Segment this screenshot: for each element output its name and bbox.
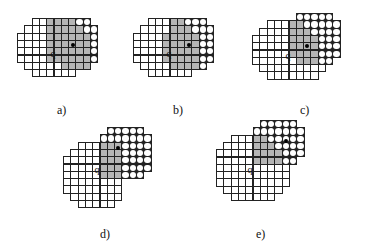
circle-cell [206, 55, 214, 63]
q-label: q [286, 51, 291, 61]
panel-caption: a) [57, 103, 66, 118]
grid-cell [310, 71, 318, 79]
grid-cell [267, 193, 275, 201]
circle-cell [325, 57, 333, 65]
grid-cell [274, 186, 282, 194]
circle-cell [289, 157, 297, 165]
circle-cell [199, 62, 207, 70]
point-marker-icon [284, 139, 288, 143]
circle-cell [143, 164, 151, 172]
point-marker-icon [187, 43, 191, 47]
panel-caption: b) [173, 103, 183, 118]
panel-caption: d) [100, 227, 110, 242]
q-label: q [51, 49, 56, 59]
circle-cell [136, 171, 144, 179]
grid-cell [68, 69, 76, 77]
point-marker-icon [71, 43, 75, 47]
circle-cell [296, 149, 304, 157]
grid-cell [282, 178, 290, 186]
grid-cell [107, 200, 115, 208]
q-label: q [94, 165, 99, 175]
point-marker-icon [116, 146, 120, 150]
panel-caption: c) [300, 103, 309, 118]
grid-cell [184, 69, 192, 77]
grid-cell [318, 64, 326, 72]
circle-cell [90, 55, 98, 63]
point-marker-icon [305, 44, 309, 48]
panel-caption: e) [256, 227, 265, 242]
circle-cell [332, 50, 340, 58]
grid-cell [114, 193, 122, 201]
overlap-cell [83, 62, 91, 70]
q-label: q [247, 165, 252, 175]
q-label: q [167, 49, 172, 59]
